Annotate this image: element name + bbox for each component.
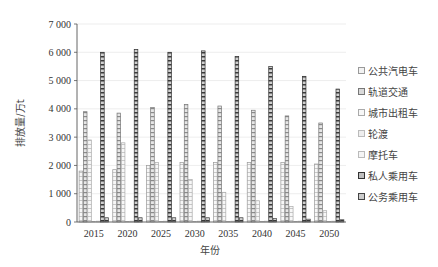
y-tick-label: 0 — [66, 217, 71, 228]
legend-swatch-icon — [358, 172, 365, 179]
legend: 公共汽电车轨道交通城市出租车轮渡摩托车私人乘用车公务乘用车 — [358, 60, 418, 207]
bar-2045-5 — [302, 76, 306, 222]
legend-item: 摩托车 — [358, 144, 418, 165]
axes: 01 0002 0003 0004 0005 0006 0007 0002015… — [49, 19, 347, 240]
y-tick-label: 5 000 — [49, 75, 72, 86]
legend-swatch-icon — [358, 109, 365, 116]
bar-2030-5 — [201, 51, 205, 222]
legend-label: 摩托车 — [368, 147, 398, 162]
x-tick-label: 2035 — [218, 228, 238, 239]
legend-item: 轮渡 — [358, 123, 418, 144]
legend-label: 公共汽电车 — [368, 63, 418, 78]
x-tick-label: 2030 — [185, 228, 205, 239]
bar-2025-2 — [155, 163, 159, 222]
x-tick-label: 2025 — [151, 228, 171, 239]
bar-2040-0 — [247, 163, 251, 222]
bar-2035-0 — [214, 163, 218, 222]
legend-item: 城市出租车 — [358, 102, 418, 123]
bar-2015-2 — [88, 140, 92, 222]
legend-item: 轨道交通 — [358, 81, 418, 102]
legend-swatch-icon — [358, 67, 365, 74]
bar-2045-0 — [281, 163, 285, 222]
y-tick-label: 3 000 — [49, 132, 72, 143]
bar-2025-1 — [151, 107, 155, 222]
legend-label: 公务乘用车 — [368, 189, 418, 204]
bar-2015-6 — [105, 218, 109, 222]
bar-2040-5 — [269, 66, 273, 222]
legend-swatch-icon — [358, 193, 365, 200]
legend-item: 公务乘用车 — [358, 186, 418, 207]
legend-swatch-icon — [358, 130, 365, 137]
legend-label: 私人乘用车 — [368, 168, 418, 183]
legend-item: 私人乘用车 — [358, 165, 418, 186]
x-tick-label: 2015 — [84, 228, 104, 239]
bar-2035-6 — [239, 218, 243, 222]
y-tick-label: 4 000 — [49, 103, 72, 114]
bar-2035-2 — [222, 192, 226, 222]
y-tick-label: 6 000 — [49, 47, 72, 58]
y-tick-label: 7 000 — [49, 19, 72, 30]
bar-2050-2 — [323, 211, 327, 222]
bar-2025-5 — [168, 52, 172, 222]
bar-series — [79, 49, 344, 222]
legend-label: 轮渡 — [368, 126, 388, 141]
legend-item: 公共汽电车 — [358, 60, 418, 81]
y-tick-label: 2 000 — [49, 160, 72, 171]
y-axis-title: 排放量/万t — [14, 99, 26, 146]
bar-2020-2 — [121, 143, 125, 222]
bar-2030-0 — [180, 163, 184, 222]
bar-2045-2 — [289, 206, 293, 222]
bar-2045-1 — [285, 116, 289, 222]
bar-2050-1 — [319, 123, 323, 222]
bar-2035-1 — [218, 106, 222, 222]
bar-2030-6 — [206, 218, 210, 222]
bar-2050-0 — [314, 164, 318, 222]
bar-2015-5 — [101, 52, 105, 222]
bar-2035-5 — [235, 57, 239, 222]
bar-2040-1 — [252, 110, 256, 222]
bar-2020-1 — [117, 113, 121, 222]
bar-2040-6 — [273, 219, 277, 222]
bar-2020-6 — [139, 218, 143, 222]
legend-swatch-icon — [358, 151, 365, 158]
x-tick-label: 2050 — [319, 228, 339, 239]
bar-2020-5 — [134, 49, 138, 222]
bar-2030-1 — [184, 105, 188, 222]
bar-2025-6 — [172, 218, 176, 222]
x-tick-label: 2020 — [117, 228, 137, 239]
legend-swatch-icon — [358, 88, 365, 95]
bar-2020-0 — [113, 170, 117, 222]
bar-2015-1 — [83, 112, 87, 222]
legend-label: 轨道交通 — [368, 84, 408, 99]
bar-2015-0 — [79, 171, 83, 222]
x-axis-title: 年份 — [200, 244, 220, 256]
legend-label: 城市出租车 — [368, 105, 418, 120]
bar-2040-2 — [256, 201, 260, 222]
x-tick-label: 2040 — [252, 228, 272, 239]
bar-2025-0 — [146, 165, 150, 222]
bar-2030-2 — [189, 180, 193, 222]
y-tick-label: 1 000 — [49, 188, 72, 199]
x-tick-label: 2045 — [286, 228, 306, 239]
bar-2050-5 — [336, 89, 340, 222]
